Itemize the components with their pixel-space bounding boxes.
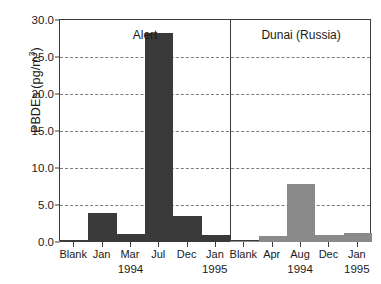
x-axis-tick-text: Dec	[177, 248, 197, 260]
bar-dunai-dec	[315, 235, 343, 242]
x-axis-year-labels: 19941995	[229, 263, 371, 281]
bar-slot	[60, 20, 88, 242]
x-axis-tick-text: Aug	[290, 248, 310, 260]
x-axis-tick-mark	[158, 242, 159, 247]
panel-title-dunai: Dunai (Russia)	[230, 28, 372, 42]
bar-slot	[259, 20, 287, 242]
x-axis-tick-mark	[272, 242, 273, 247]
bar-alert-mar	[117, 234, 145, 242]
bar-slot	[145, 20, 173, 242]
x-axis-tick-label: Blank	[59, 242, 87, 260]
x-axis-year-label: 1995	[344, 263, 370, 275]
x-axis-tick-mark	[187, 242, 188, 247]
x-axis-tick-mark	[102, 242, 103, 247]
chart-figure: PBDEs (pg/m3) 0.05.010.015.020.025.030.0…	[0, 0, 381, 284]
x-axis: BlankJanMarJulDecJan19941995BlankAprAugD…	[59, 242, 371, 284]
x-axis-tick-label: Dec	[314, 242, 342, 260]
x-axis-tick-label: Jan	[201, 242, 229, 260]
panel-alert: Alert	[60, 20, 230, 242]
x-axis-tick-label: Mar	[116, 242, 144, 260]
x-axis-tick-mark	[215, 242, 216, 247]
x-axis-tick-label: Jan	[87, 242, 115, 260]
x-axis-tick-text: Dec	[319, 248, 339, 260]
bar-alert-dec	[173, 216, 201, 242]
x-axis-tick-text: Apr	[263, 248, 280, 260]
bar-slot	[202, 20, 230, 242]
bar-series-dunai	[230, 20, 372, 242]
x-axis-year-labels: 19941995	[59, 263, 229, 281]
x-axis-tick-text: Mar	[120, 248, 139, 260]
bar-slot	[344, 20, 372, 242]
panel-divider	[230, 20, 231, 240]
x-axis-tick-text: Jan	[93, 248, 111, 260]
bar-slot	[117, 20, 145, 242]
x-axis-tick-mark	[357, 242, 358, 247]
x-axis-tick-text: Blank	[230, 248, 258, 260]
x-axis-tick-labels: BlankAprAugDecJan	[229, 242, 371, 260]
x-axis-tick-mark	[328, 242, 329, 247]
plot-area: 0.05.010.015.020.025.030.0 AlertDunai (R…	[59, 19, 371, 241]
x-axis-tick-mark	[73, 242, 74, 247]
bar-slot	[88, 20, 116, 242]
x-axis-group-dunai: BlankAprAugDecJan19941995	[229, 242, 371, 284]
x-axis-tick-text: Jan	[348, 248, 366, 260]
x-axis-year-label: 1995	[202, 263, 228, 275]
panel-dunai: Dunai (Russia)	[230, 20, 372, 242]
bar-alert-jan	[88, 213, 116, 242]
x-axis-tick-text: Blank	[59, 248, 87, 260]
x-axis-tick-label: Dec	[172, 242, 200, 260]
x-axis-year-label: 1994	[118, 263, 144, 275]
bar-slot	[315, 20, 343, 242]
x-axis-tick-text: Jan	[206, 248, 224, 260]
panel-title-alert: Alert	[60, 28, 230, 42]
x-axis-tick-labels: BlankJanMarJulDecJan	[59, 242, 229, 260]
bar-slot	[230, 20, 258, 242]
x-axis-tick-label: Jul	[144, 242, 172, 260]
bar-alert-jul	[145, 33, 173, 242]
x-axis-tick-mark	[243, 242, 244, 247]
x-axis-tick-mark	[300, 242, 301, 247]
bar-slot	[173, 20, 201, 242]
bar-alert-jan	[202, 235, 230, 242]
x-axis-tick-label: Blank	[229, 242, 257, 260]
x-axis-tick-text: Jul	[151, 248, 165, 260]
x-axis-year-label: 1994	[287, 263, 313, 275]
bar-series-alert	[60, 20, 230, 242]
x-axis-tick-label: Aug	[286, 242, 314, 260]
x-axis-tick-label: Apr	[258, 242, 286, 260]
bar-dunai-jan	[344, 233, 372, 242]
x-axis-tick-label: Jan	[343, 242, 371, 260]
x-axis-group-alert: BlankJanMarJulDecJan19941995	[59, 242, 229, 284]
bar-dunai-aug	[287, 184, 315, 242]
bar-slot	[287, 20, 315, 242]
x-axis-tick-mark	[130, 242, 131, 247]
